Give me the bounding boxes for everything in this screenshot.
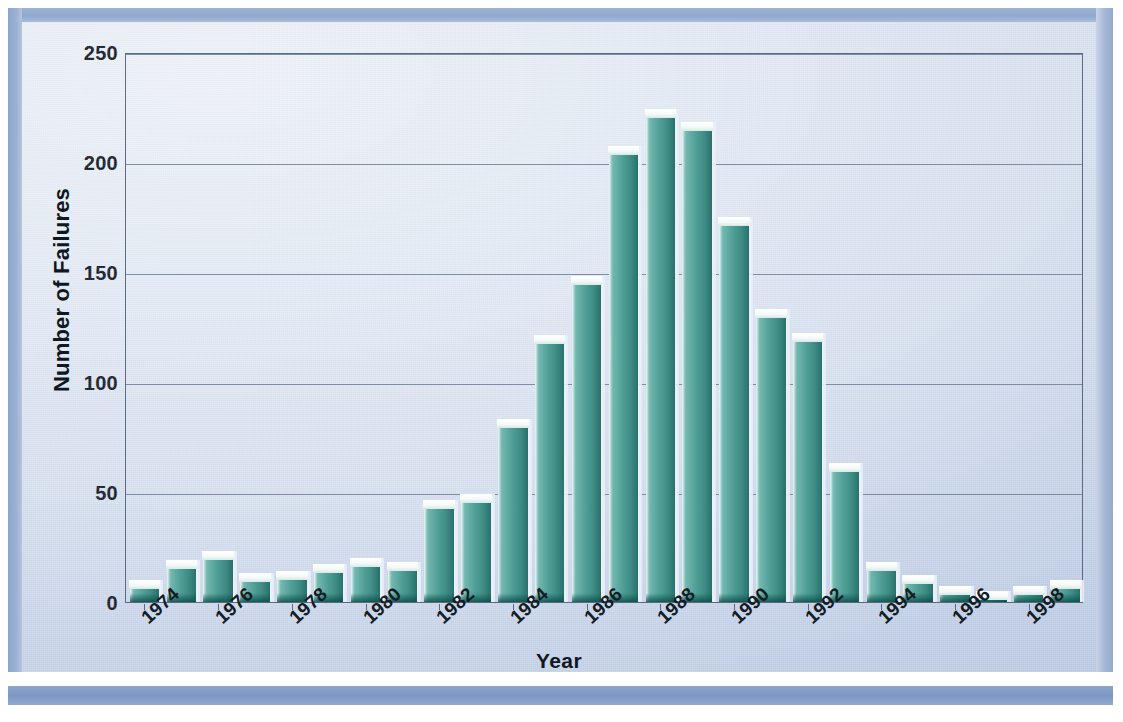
bar-top-cap — [202, 551, 233, 560]
bar-top-cap — [645, 109, 676, 118]
bar-top-cap — [608, 146, 639, 155]
bar-highlight-edge — [572, 283, 575, 602]
y-tick-label-200: 200 — [52, 152, 118, 175]
bar-right-gap — [712, 122, 716, 602]
bar-1985 — [535, 342, 564, 602]
bar-top-cap — [423, 500, 454, 509]
bar-1989 — [682, 129, 711, 602]
bar-top-cap — [866, 562, 897, 571]
bar-1982 — [424, 507, 453, 602]
bar-1991 — [756, 316, 785, 602]
bar-1992 — [793, 340, 822, 602]
bar-top-cap — [829, 463, 860, 472]
bar-highlight-edge — [424, 507, 427, 602]
frame-top-bar — [8, 8, 1113, 22]
bar-top-cap — [460, 494, 491, 503]
bar-highlight-edge — [535, 342, 538, 602]
bar-right-gap — [601, 276, 605, 602]
bar-highlight-edge — [719, 224, 722, 602]
bar-top-cap — [718, 217, 749, 226]
bar-highlight-edge — [498, 426, 501, 602]
bar-series — [126, 54, 1082, 602]
bar-top-cap — [313, 564, 344, 573]
bar-1990 — [719, 224, 748, 602]
bar-top-cap — [902, 575, 933, 584]
bar-top-cap — [239, 573, 270, 582]
bar-top-cap — [939, 586, 970, 595]
bar-right-gap — [749, 217, 753, 602]
bar-top-cap — [571, 276, 602, 285]
bar-right-gap — [822, 333, 826, 602]
bar-top-cap — [166, 560, 197, 569]
bar-highlight-edge — [793, 340, 796, 602]
frame-right-bar — [1096, 8, 1113, 672]
bar-top-cap — [681, 122, 712, 131]
plot-area — [125, 53, 1083, 603]
bar-right-gap — [491, 494, 495, 602]
bar-1987 — [609, 153, 638, 602]
bar-right-gap — [675, 109, 679, 602]
bar-top-cap — [497, 419, 528, 428]
bar-top-cap — [755, 309, 786, 318]
bar-highlight-edge — [646, 116, 649, 602]
chart-canvas: Number of Failures Year 050100150200250 … — [22, 22, 1096, 672]
bar-right-gap — [638, 146, 642, 602]
frame-left-bar — [8, 8, 22, 672]
y-axis-title: Number of Failures — [49, 188, 75, 392]
chart-poster: Number of Failures Year 050100150200250 … — [0, 0, 1123, 722]
y-tick-label-250: 250 — [52, 42, 118, 65]
bar-top-cap — [276, 571, 307, 580]
bar-1984 — [498, 426, 527, 602]
bar-highlight-edge — [609, 153, 612, 602]
bar-top-cap — [350, 558, 381, 567]
bar-right-gap — [564, 335, 568, 602]
bar-highlight-edge — [756, 316, 759, 602]
bar-right-gap — [859, 463, 863, 602]
y-tick-label-50: 50 — [52, 482, 118, 505]
bar-top-cap — [534, 335, 565, 344]
bar-1986 — [572, 283, 601, 602]
x-axis-title: Year — [22, 649, 1096, 673]
bar-right-gap — [528, 419, 532, 602]
bar-top-cap — [792, 333, 823, 342]
bar-top-cap — [129, 580, 160, 589]
bar-1988 — [646, 116, 675, 602]
bar-right-gap — [454, 500, 458, 602]
bar-top-cap — [1013, 586, 1044, 595]
frame-bottom-gap — [8, 672, 1113, 686]
frame-bottom-bar — [8, 686, 1113, 705]
bar-highlight-edge — [682, 129, 685, 602]
bar-top-cap — [387, 562, 418, 571]
y-tick-label-0: 0 — [52, 592, 118, 615]
bar-1993 — [830, 470, 859, 602]
bar-right-gap — [786, 309, 790, 602]
